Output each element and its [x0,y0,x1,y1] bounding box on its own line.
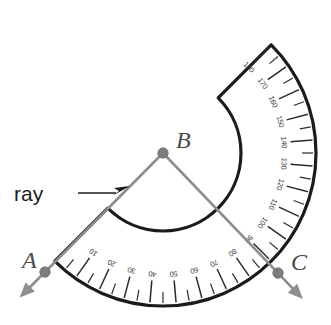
tick-label-130: 130 [279,157,289,170]
point-label-C: C [291,249,308,275]
tick-label-40: 40 [148,269,157,279]
point-dot-B [158,148,168,158]
point-dot-C [273,268,283,278]
point-dot-A [40,267,50,277]
point-label-B: B [176,127,191,153]
annotation-group: ray [14,182,130,205]
tick-label-50: 50 [169,269,178,279]
point-label-A: A [20,247,37,273]
figure-canvas: 1020304050607080901001101201301401501601… [0,0,331,325]
ray-annotation-label: ray [14,182,44,205]
tick-label-140: 140 [279,136,289,149]
geometry-figure: 1020304050607080901001101201301401501601… [0,0,331,325]
